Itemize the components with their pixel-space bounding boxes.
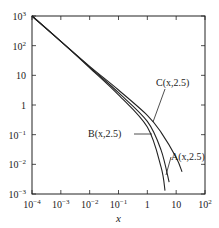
x-tick-label: 102 bbox=[198, 198, 212, 210]
x-tick-labels: 10−410−310−210−1110102 bbox=[23, 198, 212, 210]
leader-c bbox=[153, 89, 165, 122]
y-tick-label: 103 bbox=[13, 10, 27, 22]
x-tick-label: 1 bbox=[145, 199, 150, 210]
x-tick-label: 10−2 bbox=[81, 198, 99, 210]
curve-a bbox=[32, 16, 169, 182]
y-tick-label: 10 bbox=[16, 70, 26, 81]
y-tick-label: 102 bbox=[13, 40, 27, 52]
plot-frame bbox=[32, 16, 205, 194]
log-log-chart: 10−410−310−210−1110102 10310210110−110−2… bbox=[0, 0, 219, 228]
y-tick-label: 10−1 bbox=[9, 129, 27, 141]
x-axis-title: x bbox=[115, 212, 121, 224]
curve-c bbox=[32, 16, 182, 172]
label-a: A(x,2.5) bbox=[171, 151, 205, 163]
x-tick-label: 10−3 bbox=[52, 198, 70, 210]
x-tick-label: 10−4 bbox=[23, 198, 41, 210]
axis-ticks bbox=[32, 16, 205, 194]
y-tick-label: 10−2 bbox=[9, 158, 27, 170]
x-tick-label: 10−1 bbox=[110, 198, 128, 210]
leader-a bbox=[166, 157, 171, 175]
y-tick-labels: 10310210110−110−210−3 bbox=[9, 10, 27, 200]
label-b: B(x,2.5) bbox=[88, 128, 121, 140]
y-tick-label: 1 bbox=[21, 100, 26, 111]
curve-b bbox=[32, 16, 165, 191]
x-tick-label: 10 bbox=[171, 199, 181, 210]
label-c: C(x,2.5) bbox=[156, 77, 189, 89]
